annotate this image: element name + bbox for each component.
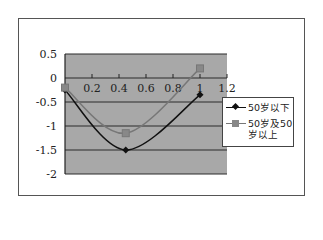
diamond-marker-icon <box>226 102 246 112</box>
legend-item-under-50: 50岁以下 <box>226 102 290 113</box>
x-tick-label: 0.4 <box>110 82 128 95</box>
y-tick-label: -2 <box>46 168 57 181</box>
y-tick-label: -1.5 <box>36 144 57 157</box>
y-tick-label: 0 <box>50 72 57 85</box>
x-tick-label: 0.8 <box>164 82 182 95</box>
x-tick-label: 0.2 <box>83 82 101 95</box>
legend-label: 50岁及50岁以上 <box>248 118 292 140</box>
square-marker-icon <box>226 118 246 128</box>
y-tick-label: -0.5 <box>36 96 57 109</box>
chart-legend: 50岁以下 50岁及50岁以上 <box>222 97 294 147</box>
square-marker-icon <box>122 130 129 137</box>
legend-item-50-and-over: 50岁及50岁以上 <box>226 118 292 140</box>
y-tick-label: -1 <box>46 120 57 133</box>
legend-label: 50岁以下 <box>248 102 290 113</box>
square-marker-icon <box>197 65 204 72</box>
x-tick-label: 0.6 <box>137 82 155 95</box>
y-tick-label: 0.5 <box>40 48 58 61</box>
square-marker-icon <box>62 84 69 91</box>
x-tick-label: 1.2 <box>218 82 236 95</box>
